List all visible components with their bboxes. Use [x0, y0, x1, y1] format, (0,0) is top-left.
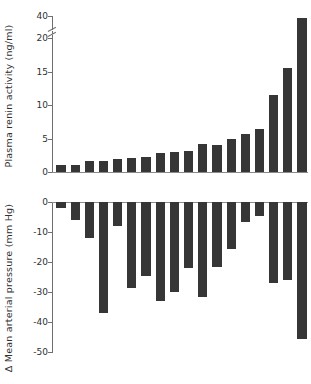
map-bar — [71, 202, 80, 220]
map-tick-label: -20 — [33, 258, 48, 267]
renin-bar — [71, 165, 80, 172]
renin-bar — [283, 68, 292, 172]
renin-baseline — [52, 172, 308, 173]
renin-bar — [56, 165, 65, 172]
map-tick-mark — [48, 322, 52, 323]
map-bar — [269, 202, 278, 283]
renin-bar — [297, 18, 306, 172]
map-bar — [212, 202, 221, 267]
map-bar-group — [52, 202, 308, 357]
renin-tick-label: 40 — [37, 12, 48, 21]
map-bar — [198, 202, 207, 297]
renin-axis-break-icon — [48, 27, 58, 39]
renin-bar — [184, 151, 193, 172]
map-bar — [56, 202, 65, 208]
renin-tick-label: 10 — [37, 101, 48, 110]
renin-bar — [170, 152, 179, 172]
map-bar — [113, 202, 122, 226]
map-bar — [255, 202, 264, 216]
map-bar — [99, 202, 108, 313]
renin-bar — [141, 157, 150, 172]
map-tick-label: -30 — [33, 288, 48, 297]
map-bar — [85, 202, 94, 238]
renin-axis-title: Plasma renin activity (ng/ml) — [1, 0, 17, 192]
map-tick-label: -40 — [33, 318, 48, 327]
renin-tick-mark — [48, 72, 52, 73]
renin-bar — [198, 144, 207, 172]
map-tick-mark — [48, 262, 52, 263]
map-bar — [156, 202, 165, 301]
map-bar — [283, 202, 292, 280]
map-plot-area — [52, 202, 308, 357]
renin-bar — [255, 129, 264, 172]
figure-root: Plasma renin activity (ng/ml) 4020151050… — [0, 0, 311, 384]
map-axis-title: Δ Mean arterial pressure (mm Hg) — [1, 192, 17, 384]
map-tick-mark — [48, 292, 52, 293]
renin-bar — [269, 95, 278, 172]
map-bar — [170, 202, 179, 292]
renin-bar — [113, 159, 122, 172]
mean-arterial-pressure-panel: Δ Mean arterial pressure (mm Hg) 0-10-20… — [0, 192, 311, 384]
renin-bar — [241, 134, 250, 172]
map-bar — [241, 202, 250, 222]
map-tick-label: -50 — [33, 348, 48, 357]
map-bar — [297, 202, 306, 339]
map-tick-label-group: 0-10-20-30-40-50 — [18, 192, 48, 384]
renin-bar — [85, 161, 94, 172]
renin-tick-mark — [48, 139, 52, 140]
renin-tick-label-group: 4020151050 — [18, 0, 48, 192]
renin-tick-label: 20 — [37, 34, 48, 43]
map-tick-label: -10 — [33, 228, 48, 237]
map-tick-mark — [48, 202, 52, 203]
map-bar — [184, 202, 193, 268]
plasma-renin-activity-panel: Plasma renin activity (ng/ml) 4020151050 — [0, 0, 311, 192]
renin-tick-mark — [48, 105, 52, 106]
renin-bar — [127, 158, 136, 172]
map-bar — [141, 202, 150, 276]
map-tick-mark — [48, 232, 52, 233]
renin-tick-mark — [48, 172, 52, 173]
renin-plot-area — [52, 12, 308, 172]
map-tick-mark — [48, 352, 52, 353]
map-bar — [227, 202, 236, 249]
renin-bar — [156, 153, 165, 172]
renin-bar — [212, 145, 221, 172]
renin-tick-label: 15 — [37, 67, 48, 76]
renin-bar-group — [52, 12, 308, 172]
renin-tick-mark — [48, 16, 52, 17]
map-bar — [127, 202, 136, 288]
renin-bar — [99, 161, 108, 172]
renin-bar — [227, 139, 236, 173]
